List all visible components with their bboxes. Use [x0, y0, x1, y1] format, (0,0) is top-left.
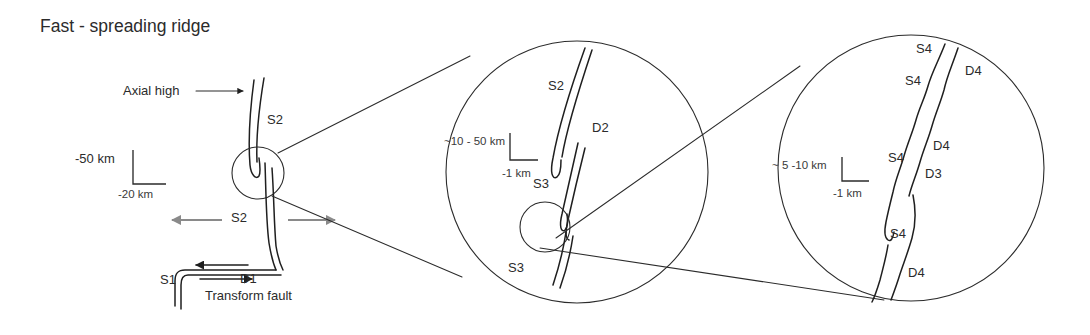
zoom-connector-middle-to-right	[540, 66, 884, 300]
discontinuity-label-d4-c: D4	[908, 265, 925, 280]
figure-canvas: Fast - spreading ridge Axial high S2 S2	[0, 0, 1090, 335]
ridge-segment-s2-upper	[249, 78, 264, 177]
scale-bar-main	[133, 150, 166, 184]
segment-label-s2-upper: S2	[267, 112, 283, 127]
segment-label-s4-c: S4	[888, 150, 904, 165]
ridge-segment-s3-middle	[561, 143, 585, 240]
transform-fault-label: Transform fault	[205, 288, 292, 303]
segment-label-s2-lower: S2	[231, 210, 247, 225]
page-title: Fast - spreading ridge	[40, 16, 210, 36]
axial-high-label: Axial high	[123, 83, 179, 98]
segment-label-s3-middle-upper: S3	[533, 176, 549, 191]
scale-vertical-middle: ~10 - 50 km	[444, 135, 505, 147]
scale-vertical-right: ~ 5 -10 km	[772, 159, 827, 171]
ridge-segment-s2-lower	[265, 163, 283, 270]
segment-label-s4-d: S4	[890, 226, 906, 241]
ridge-diagram: Fast - spreading ridge Axial high S2 S2	[0, 0, 1090, 335]
zoom-connector-main-to-middle	[272, 56, 470, 277]
segment-label-s2-middle: S2	[548, 78, 564, 93]
segment-label-s4-b: S4	[905, 73, 921, 88]
scale-bar-middle	[510, 133, 538, 160]
discontinuity-label-d4-b: D4	[933, 138, 950, 153]
zoom-circle-middle	[446, 41, 708, 303]
discontinuity-label-d3: D3	[925, 166, 942, 181]
inset-circle-middle	[520, 202, 570, 252]
discontinuity-label-d2: D2	[592, 120, 609, 135]
scale-horizontal-right: -1 km	[833, 187, 862, 199]
scale-vertical-main: -50 km	[75, 151, 115, 166]
ridge-segment-s2-middle	[552, 48, 592, 178]
scale-horizontal-middle: -1 km	[502, 167, 531, 179]
inset-circle-main	[232, 147, 284, 199]
segment-label-s1: S1	[160, 272, 176, 287]
segment-label-s3-middle-lower: S3	[508, 260, 524, 275]
scale-bar-right	[842, 157, 869, 181]
discontinuity-label-d4-a: D4	[965, 63, 982, 78]
discontinuity-label-d1: D1	[240, 271, 257, 286]
scale-horizontal-main: -20 km	[118, 188, 153, 200]
segment-label-s4-a: S4	[916, 41, 932, 56]
ridge-segment-s3-middle-lower	[553, 232, 573, 288]
